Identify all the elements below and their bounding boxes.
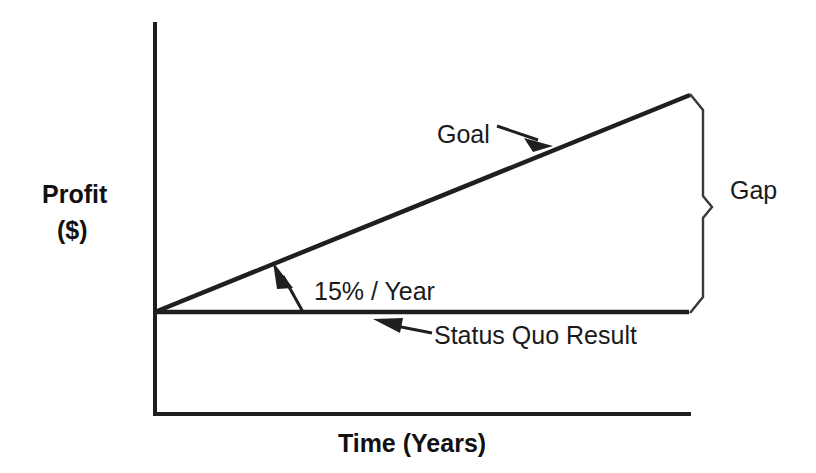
status-quo-label: Status Quo Result — [434, 321, 637, 349]
goal-callout-arrow — [497, 126, 553, 152]
x-axis-label: Time (Years) — [338, 429, 486, 457]
status-quo-callout-arrow — [373, 318, 432, 333]
y-axis-label-line1: Profit — [42, 180, 108, 208]
goal-arrow-head — [524, 138, 553, 152]
goal-arrow-shaft — [497, 126, 538, 140]
status-quo-arrow-head — [373, 318, 403, 333]
status-quo-arrow-shaft — [396, 326, 432, 333]
growth-rate-label: 15% / Year — [314, 277, 435, 305]
profit-gap-chart: Profit ($) Time (Years) Goal 15% / Year … — [0, 0, 816, 473]
goal-label: Goal — [437, 120, 490, 148]
y-axis-label-line2: ($) — [57, 216, 88, 244]
gap-label: Gap — [730, 176, 777, 204]
figure-root: Profit ($) Time (Years) Goal 15% / Year … — [0, 0, 816, 473]
gap-brace-path — [690, 94, 712, 313]
gap-brace — [690, 94, 712, 313]
growth-arrow-head — [273, 262, 293, 289]
growth-callout-arrow — [273, 262, 303, 312]
axes-group — [153, 22, 691, 415]
